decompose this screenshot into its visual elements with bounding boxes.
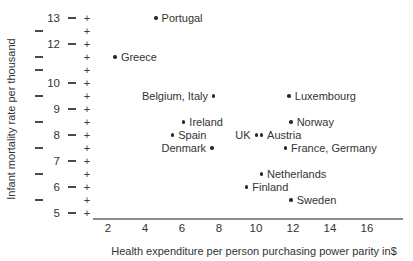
data-point-dot — [212, 94, 216, 98]
data-point-france-germany: France, Germany — [284, 141, 377, 156]
data-point-dot — [210, 146, 214, 150]
data-point-greece: Greece — [113, 50, 157, 65]
x-tick-label: 16 — [356, 221, 378, 235]
y-tick-label: 12 — [34, 37, 60, 51]
data-point-dot — [260, 172, 264, 176]
data-point-label: Finland — [252, 181, 288, 193]
y-tick-plus: + — [81, 193, 93, 207]
y-tick-plus: + — [81, 89, 93, 103]
data-point-dot — [289, 120, 293, 124]
y-tick-label: 9 — [34, 102, 60, 116]
data-point-label: Sweden — [297, 194, 337, 206]
y-tick-plus: + — [81, 206, 93, 220]
data-point-label: Greece — [121, 51, 157, 63]
y-tick-plus: + — [81, 76, 93, 90]
data-point-dot — [255, 133, 259, 137]
y-tick-plus: + — [81, 24, 93, 38]
y-tick-plus: + — [81, 180, 93, 194]
x-tick-label: 14 — [319, 221, 341, 235]
x-tick-label: 2 — [97, 221, 119, 235]
y-tick-label: 10 — [34, 76, 60, 90]
y-tick-dash — [35, 69, 43, 71]
y-tick-plus: + — [81, 128, 93, 142]
data-point-label: UK — [235, 129, 250, 141]
data-point-dot — [284, 146, 288, 150]
data-point-dot — [287, 94, 291, 98]
y-tick-label: 8 — [34, 128, 60, 142]
data-point-dot — [182, 120, 186, 124]
data-point-dot — [171, 133, 175, 137]
y-tick-dash — [68, 108, 76, 110]
data-point-dot — [154, 16, 158, 20]
y-tick-dash — [68, 212, 76, 214]
data-point-dot — [113, 55, 117, 59]
data-point-label: Spain — [178, 129, 206, 141]
data-point-label: Netherlands — [267, 168, 326, 180]
y-tick-label: 13 — [34, 11, 60, 25]
y-tick-label: 6 — [34, 180, 60, 194]
x-tick-label: 10 — [245, 221, 267, 235]
data-point-label: Denmark — [161, 142, 206, 154]
y-tick-dash — [35, 173, 43, 175]
data-point-sweden: Sweden — [289, 193, 336, 208]
x-tick-label: 4 — [134, 221, 156, 235]
data-point-label: Portugal — [162, 12, 203, 24]
y-tick-label: 7 — [34, 154, 60, 168]
data-point-label: France, Germany — [291, 142, 377, 154]
y-tick-dash — [35, 56, 43, 58]
y-tick-plus: + — [81, 37, 93, 51]
y-tick-dash — [35, 30, 43, 32]
data-point-label: Belgium, Italy — [142, 90, 208, 102]
y-tick-dash — [68, 134, 76, 136]
data-point-belgium-italy: Belgium, Italy — [142, 89, 216, 104]
y-tick-dash — [68, 160, 76, 162]
x-axis-title: Health expenditure per person purchasing… — [94, 244, 413, 258]
y-tick-dash — [68, 17, 76, 19]
data-point-dot — [289, 198, 293, 202]
data-point-luxembourg: Luxembourg — [287, 89, 356, 104]
data-point-label: Ireland — [189, 116, 223, 128]
y-tick-dash — [68, 43, 76, 45]
y-tick-plus: + — [81, 50, 93, 64]
data-point-dot — [260, 133, 264, 137]
data-point-uk: UK — [235, 128, 258, 143]
data-point-label: Luxembourg — [295, 90, 356, 102]
x-tick-label: 12 — [282, 221, 304, 235]
y-tick-label: 5 — [34, 206, 60, 220]
y-tick-plus: + — [81, 154, 93, 168]
y-tick-dash — [35, 147, 43, 149]
y-tick-dash — [68, 82, 76, 84]
y-tick-plus: + — [81, 102, 93, 116]
y-tick-dash — [68, 186, 76, 188]
y-tick-dash — [35, 121, 43, 123]
y-tick-plus: + — [81, 141, 93, 155]
scatter-plot-figure: Infant mortality rate per thousand 13++1… — [0, 0, 413, 261]
y-tick-dash — [35, 199, 43, 201]
data-point-portugal: Portugal — [154, 11, 202, 26]
x-tick-label: 6 — [171, 221, 193, 235]
data-point-label: Norway — [297, 116, 334, 128]
x-axis-line — [93, 218, 403, 220]
y-tick-plus: + — [81, 167, 93, 181]
data-point-label: Austria — [267, 129, 301, 141]
data-point-finland: Finland — [245, 180, 289, 195]
y-tick-dash — [35, 95, 43, 97]
data-point-dot — [245, 185, 249, 189]
x-tick-label: 8 — [208, 221, 230, 235]
y-axis-title: Infant mortality rate per thousand — [5, 38, 17, 199]
y-tick-plus: + — [81, 115, 93, 129]
data-point-denmark: Denmark — [161, 141, 213, 156]
y-tick-plus: + — [81, 63, 93, 77]
y-tick-plus: + — [81, 11, 93, 25]
